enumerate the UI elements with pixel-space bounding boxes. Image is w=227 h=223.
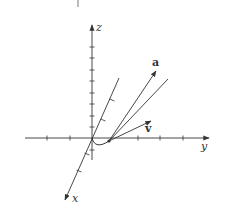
y-axis-label: y: [200, 140, 208, 153]
vector-a-label: a: [152, 56, 159, 69]
x-axis-label: x: [72, 192, 79, 205]
z-axis: z: [90, 21, 103, 160]
vector-v-label: v: [144, 122, 152, 135]
vector-diagram: y z x a: [0, 0, 227, 223]
y-axis: y: [25, 136, 209, 154]
tangent-line: [109, 79, 168, 141]
vector-a: a: [109, 56, 159, 141]
trajectory-curve: [92, 138, 109, 145]
z-axis-label: z: [95, 21, 102, 34]
